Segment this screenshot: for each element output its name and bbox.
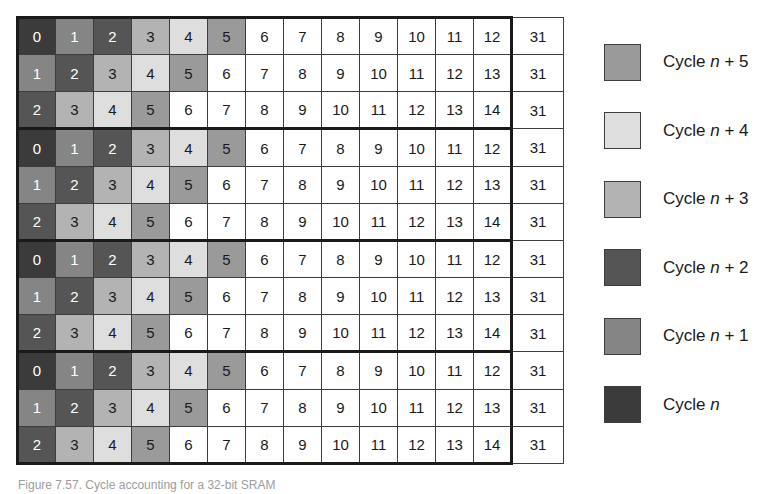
grid-cell: 4 <box>132 278 170 315</box>
grid-cell: 9 <box>322 278 360 315</box>
grid-cell: 2 <box>94 18 132 55</box>
grid-cell: 0 <box>18 18 56 55</box>
grid-cell: 3 <box>56 203 94 240</box>
grid-cell: 4 <box>170 18 208 55</box>
grid-cell: 1 <box>18 389 56 426</box>
grid-cell: 3 <box>94 389 132 426</box>
grid-cell: 10 <box>322 426 360 463</box>
grid-cell: 11 <box>436 129 474 166</box>
grid-cell: 11 <box>398 55 436 92</box>
grid-cell: 10 <box>322 315 360 352</box>
grid-row: 23456789101112131431 <box>18 203 564 240</box>
grid-cell-tail: 31 <box>512 352 564 389</box>
grid-cell: 6 <box>208 389 246 426</box>
grid-cell: 7 <box>246 278 284 315</box>
grid-cell: 4 <box>94 203 132 240</box>
grid-cell: 5 <box>208 352 246 389</box>
grid-cell: 2 <box>56 278 94 315</box>
grid-cell: 7 <box>246 389 284 426</box>
grid-row: 012345678910111231 <box>18 129 564 166</box>
grid-cell: 8 <box>246 426 284 463</box>
legend: Cycle n + 5Cycle n + 4Cycle n + 3Cycle n… <box>604 43 775 454</box>
legend-label-variable: n <box>710 189 719 208</box>
grid-cell: 9 <box>284 315 322 352</box>
legend-label-prefix: Cycle <box>663 52 710 71</box>
grid-cell: 12 <box>436 278 474 315</box>
grid-cell: 12 <box>398 426 436 463</box>
grid-cell: 2 <box>18 426 56 463</box>
grid-cell: 7 <box>208 426 246 463</box>
grid-cell: 1 <box>18 166 56 203</box>
grid-cell: 3 <box>56 315 94 352</box>
grid-cell: 8 <box>322 129 360 166</box>
grid-cell: 5 <box>170 166 208 203</box>
grid-cell: 6 <box>170 203 208 240</box>
grid-cell: 3 <box>132 352 170 389</box>
grid-cell: 7 <box>208 92 246 129</box>
grid-row: 23456789101112131431 <box>18 315 564 352</box>
grid-cell: 9 <box>360 18 398 55</box>
grid-cell: 14 <box>474 203 512 240</box>
grid-row: 012345678910111231 <box>18 18 564 55</box>
grid-cell: 3 <box>56 426 94 463</box>
legend-label: Cycle n + 3 <box>663 189 749 209</box>
grid-cell: 14 <box>474 426 512 463</box>
legend-label-suffix: + 5 <box>720 52 749 71</box>
grid-cell: 7 <box>246 55 284 92</box>
grid-cell: 1 <box>56 129 94 166</box>
legend-item: Cycle n + 5 <box>604 43 775 81</box>
grid-cell: 3 <box>132 240 170 277</box>
grid-cell: 5 <box>208 240 246 277</box>
grid-cell: 9 <box>284 203 322 240</box>
legend-label-suffix: + 2 <box>720 258 749 277</box>
grid-cell: 10 <box>398 240 436 277</box>
grid-cell: 1 <box>56 352 94 389</box>
grid-cell-tail: 31 <box>512 389 564 426</box>
legend-label: Cycle n + 4 <box>663 121 749 141</box>
grid-cell: 8 <box>246 203 284 240</box>
grid-cell: 4 <box>132 389 170 426</box>
grid-cell: 8 <box>246 92 284 129</box>
grid-cell-tail: 31 <box>512 315 564 352</box>
grid-cell: 8 <box>246 315 284 352</box>
grid-cell: 8 <box>322 352 360 389</box>
legend-label: Cycle n + 5 <box>663 52 749 72</box>
grid-row: 1234567891011121331 <box>18 166 564 203</box>
legend-label-prefix: Cycle <box>663 326 710 345</box>
grid-cell: 4 <box>132 55 170 92</box>
grid-cell: 7 <box>208 203 246 240</box>
grid-cell: 3 <box>132 18 170 55</box>
grid-cell: 12 <box>474 18 512 55</box>
grid-cell: 13 <box>474 389 512 426</box>
grid-cell: 8 <box>322 240 360 277</box>
grid-cell: 1 <box>18 55 56 92</box>
grid-cell: 14 <box>474 92 512 129</box>
grid-cell-tail: 31 <box>512 240 564 277</box>
grid-row: 1234567891011121331 <box>18 389 564 426</box>
legend-item: Cycle n + 1 <box>604 317 775 355</box>
grid-cell: 10 <box>322 92 360 129</box>
grid-cell: 5 <box>132 315 170 352</box>
grid-cell: 10 <box>360 166 398 203</box>
grid-cell-tail: 31 <box>512 55 564 92</box>
grid-cell: 9 <box>284 92 322 129</box>
grid-cell: 12 <box>398 203 436 240</box>
grid-cell: 12 <box>474 240 512 277</box>
grid-cell: 13 <box>436 315 474 352</box>
grid-cell: 11 <box>360 203 398 240</box>
grid-cell-tail: 31 <box>512 18 564 55</box>
grid-cell: 10 <box>398 352 436 389</box>
grid-cell: 12 <box>398 315 436 352</box>
legend-label-prefix: Cycle <box>663 121 710 140</box>
grid-cell: 3 <box>94 166 132 203</box>
grid-cell: 10 <box>360 278 398 315</box>
grid-cell: 2 <box>18 92 56 129</box>
grid-cell: 7 <box>284 129 322 166</box>
legend-label-prefix: Cycle <box>663 258 710 277</box>
grid-row: 23456789101112131431 <box>18 92 564 129</box>
grid-row: 1234567891011121331 <box>18 278 564 315</box>
legend-label: Cycle n <box>663 395 720 415</box>
grid-cell: 9 <box>360 352 398 389</box>
figure-caption: Figure 7.57. Cycle accounting for a 32-b… <box>18 478 538 492</box>
legend-label-variable: n <box>710 52 719 71</box>
